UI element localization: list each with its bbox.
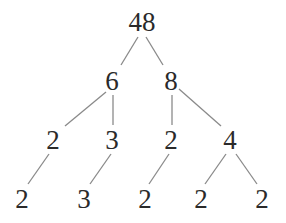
tree-node-n2b: 2 [164, 127, 178, 154]
tree-node-n6: 6 [105, 68, 119, 95]
tree-edge-n3a-n3b [90, 154, 111, 184]
tree-edge-n6-n2a [65, 92, 106, 126]
tree-node-n4: 4 [223, 127, 237, 154]
tree-node-n2e: 2 [194, 186, 208, 213]
tree-node-n2c: 2 [15, 186, 29, 213]
tree-node-n8: 8 [164, 68, 178, 95]
tree-edge-n48-n6 [121, 37, 138, 65]
tree-node-n48: 48 [129, 9, 156, 36]
tree-node-n2a: 2 [46, 127, 60, 154]
tree-node-n2f: 2 [255, 186, 269, 213]
factor-tree-diagram: 4868232423222 [0, 0, 286, 223]
tree-edge-n8-n4 [179, 89, 221, 126]
tree-node-n3a: 3 [105, 127, 119, 154]
tree-edge-n4-n2f [236, 154, 257, 184]
tree-node-n3b: 3 [77, 186, 91, 213]
tree-edge-n4-n2e [205, 154, 226, 184]
tree-edge-n2b-n2d [149, 154, 169, 184]
tree-edge-n2a-n2c [28, 154, 49, 184]
tree-edge-n48-n8 [146, 37, 163, 65]
tree-node-n2d: 2 [138, 186, 152, 213]
